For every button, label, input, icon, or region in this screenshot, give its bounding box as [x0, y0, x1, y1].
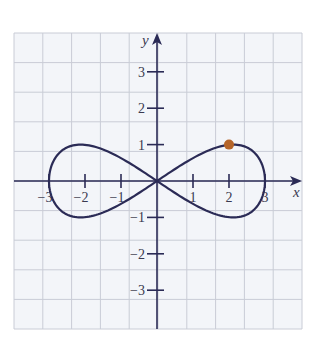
x-tick-label: −2: [74, 190, 89, 205]
y-tick-label: 2: [138, 101, 145, 116]
y-tick-label: −1: [130, 210, 145, 225]
y-tick-label: 1: [138, 138, 145, 153]
y-tick-label: −2: [130, 247, 145, 262]
x-tick-label: 2: [226, 190, 233, 205]
y-tick-label: −3: [130, 283, 145, 298]
y-tick-label: 3: [138, 65, 145, 80]
highlighted-point-dot: [224, 140, 234, 150]
x-axis-label: x: [292, 184, 300, 200]
figure-eight-chart: −3−2−1123321−1−2−3 y x: [0, 0, 324, 344]
highlighted-point: [224, 140, 234, 150]
y-axis-label: y: [140, 32, 149, 48]
